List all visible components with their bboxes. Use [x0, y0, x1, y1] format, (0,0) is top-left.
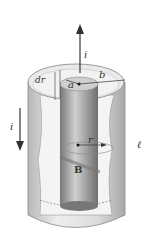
current-up-arrow — [76, 24, 84, 34]
dr-label: dr — [35, 76, 45, 85]
magnetic-field-label: B — [74, 165, 82, 175]
current-down-arrow — [16, 141, 24, 151]
length-label: ℓ — [137, 140, 141, 150]
r-label: r — [88, 135, 93, 145]
a-label: a — [68, 80, 74, 90]
current-label-top: i — [84, 50, 87, 60]
coaxial-cable-diagram — [0, 0, 151, 243]
current-label-left: i — [10, 122, 13, 132]
b-label: b — [99, 70, 105, 80]
